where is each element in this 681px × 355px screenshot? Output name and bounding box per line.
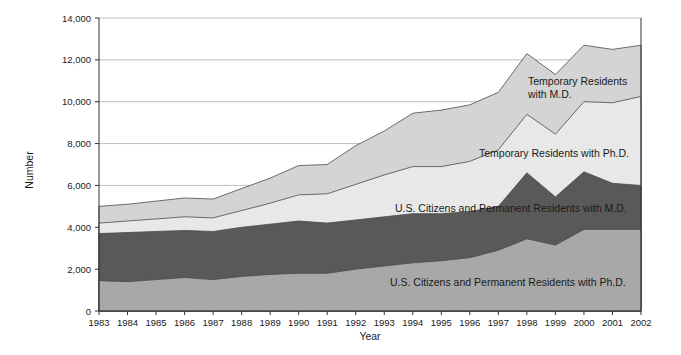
y-tick-label: 8,000 xyxy=(67,138,91,149)
y-tick-label: 4,000 xyxy=(67,222,91,233)
x-tick-label: 1986 xyxy=(174,317,195,328)
series-label: U.S. Citizens and Permanent Residents wi… xyxy=(390,276,626,288)
x-tick-label: 1995 xyxy=(431,317,452,328)
x-tick-label: 2002 xyxy=(630,317,651,328)
x-tick-label: 1997 xyxy=(488,317,509,328)
x-tick-label: 1990 xyxy=(288,317,309,328)
y-tick-label: 12,000 xyxy=(62,54,91,65)
stacked-area-chart: 02,0004,0006,0008,00010,00012,00014,000 … xyxy=(0,0,681,355)
series-label: with M.D. xyxy=(527,88,572,100)
y-tick-label: 10,000 xyxy=(62,96,91,107)
x-tick-label: 1984 xyxy=(117,317,138,328)
x-tick-label: 1987 xyxy=(203,317,224,328)
series-label: Temporary Residents xyxy=(528,75,627,87)
y-axis-title: Number xyxy=(23,151,35,189)
chart-canvas: 02,0004,0006,0008,00010,00012,00014,000 … xyxy=(0,0,681,355)
y-tick-label: 0 xyxy=(86,306,91,317)
x-tick-label: 1989 xyxy=(260,317,281,328)
series-label: U.S. Citizens and Permanent Residents wi… xyxy=(395,202,627,214)
x-tick-label: 1993 xyxy=(374,317,395,328)
y-tick-label: 6,000 xyxy=(67,180,91,191)
x-tick-label: 1992 xyxy=(345,317,366,328)
x-tick-label: 1996 xyxy=(459,317,480,328)
y-tick-label: 14,000 xyxy=(62,13,91,24)
x-tick-label: 2001 xyxy=(602,317,623,328)
x-axis-title: Year xyxy=(359,330,381,342)
x-tick-label: 1983 xyxy=(88,317,109,328)
x-tick-label: 1985 xyxy=(145,317,166,328)
x-tick-label: 1998 xyxy=(516,317,537,328)
x-tick-label: 1991 xyxy=(317,317,338,328)
series-label: Temporary Residents with Ph.D. xyxy=(479,147,629,159)
x-tick-label: 2000 xyxy=(573,317,594,328)
x-tick-label: 1988 xyxy=(231,317,252,328)
y-tick-label: 2,000 xyxy=(67,264,91,275)
x-tick-label: 1999 xyxy=(545,317,566,328)
x-tick-label: 1994 xyxy=(402,317,423,328)
